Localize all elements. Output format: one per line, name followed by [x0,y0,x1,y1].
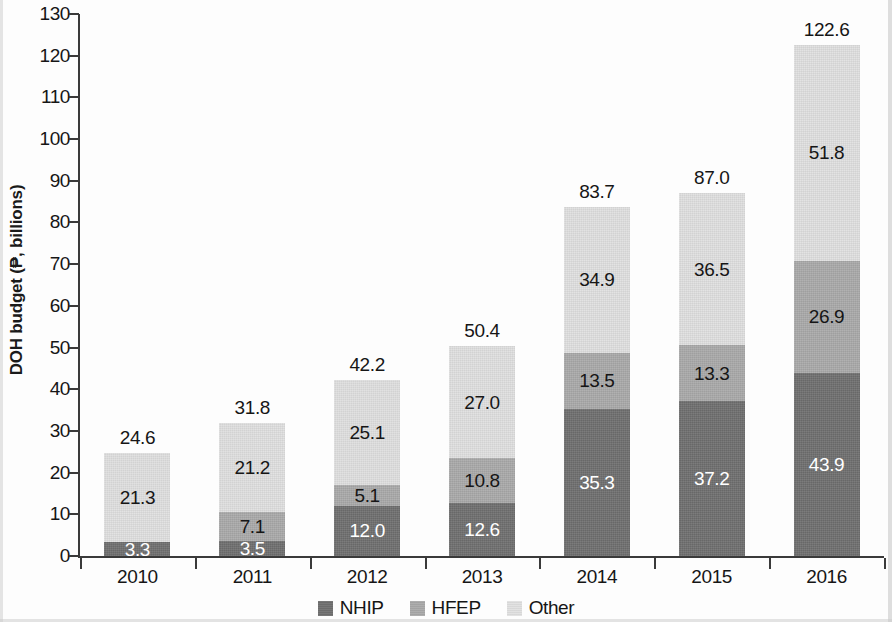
bar-segment-value-label: 25.1 [349,423,384,442]
y-axis-tick-mark [69,472,79,474]
bar-segment-hfep[interactable]: 10.8 [449,458,515,503]
x-axis-tick-mark [769,558,771,569]
x-axis-tick-label-2014: 2014 [577,566,618,588]
x-axis-tick-mark [654,558,656,569]
y-axis-tick-mark [69,13,79,15]
y-axis-tick-label: 100 [39,128,70,150]
bar-total-label: 42.2 [334,354,400,376]
bar-segment-other[interactable]: 34.9 [564,207,630,353]
bar-segment-nhip[interactable]: 12.6 [449,503,515,556]
bar-segment-value-label: 35.3 [579,473,614,492]
x-axis-tick-labels: 2010201120122013201420152016 [80,566,884,596]
legend-item-other[interactable]: Other [507,597,575,619]
y-axis-tick-labels: 0102030405060708090100110120130 [22,0,70,622]
bar-group-2014[interactable]: 34.913.535.383.7 [564,14,630,556]
y-axis-tick-label: 40 [50,378,70,400]
bar-stack: 21.33.3 [104,453,170,556]
bar-stack: 36.513.337.2 [679,193,745,556]
bar-segment-nhip[interactable]: 3.3 [104,542,170,556]
y-axis-tick-label: 70 [50,253,70,275]
bar-segment-nhip[interactable]: 3.5 [219,541,285,556]
y-axis-tick-mark [69,180,79,182]
y-axis-tick-mark [69,55,79,57]
bar-segment-other[interactable]: 51.8 [794,45,860,261]
bar-total-label: 122.6 [794,19,860,41]
bar-group-2015[interactable]: 36.513.337.287.0 [679,14,745,556]
bar-segment-other[interactable]: 21.2 [219,423,285,511]
y-axis-tick-mark [69,96,79,98]
y-axis-tick-label: 80 [50,211,70,233]
bar-segment-value-label: 3.5 [240,539,265,558]
bar-segment-value-label: 21.3 [120,488,155,507]
x-axis-tick-mark [310,558,312,569]
legend-swatch-nhip [318,601,333,616]
stacked-bar-chart: DOH budget (₱, billions) 010203040506070… [0,0,892,622]
bar-segment-other[interactable]: 25.1 [334,380,400,485]
y-axis-tick-mark [69,221,79,223]
legend-swatch-hfep [410,601,425,616]
bar-total-label: 87.0 [679,167,745,189]
legend-label: Other [529,597,575,619]
x-axis-tick-label-2013: 2013 [462,566,503,588]
y-axis-tick-label: 20 [50,462,70,484]
bar-segment-other[interactable]: 21.3 [104,453,170,542]
bar-group-2011[interactable]: 21.27.13.531.8 [219,14,285,556]
x-axis-line [78,556,884,558]
y-axis-tick-label: 10 [50,503,70,525]
legend-label: NHIP [340,597,384,619]
bar-group-2016[interactable]: 51.826.943.9122.6 [794,14,860,556]
bar-segment-value-label: 37.2 [694,469,729,488]
bar-segment-other[interactable]: 27.0 [449,346,515,459]
bar-segment-value-label: 13.3 [694,364,729,383]
y-axis-tick-mark [69,430,79,432]
scan-edge-left [0,0,3,622]
bar-stack: 27.010.812.6 [449,346,515,556]
y-axis-tick-mark [69,138,79,140]
bar-segment-other[interactable]: 36.5 [679,193,745,345]
y-axis-tick-label: 30 [50,420,70,442]
bar-segment-hfep[interactable]: 5.1 [334,485,400,506]
x-axis-tick-label-2010: 2010 [117,566,158,588]
bar-group-2012[interactable]: 25.15.112.042.2 [334,14,400,556]
bar-segment-hfep[interactable]: 26.9 [794,261,860,373]
legend-item-hfep[interactable]: HFEP [410,597,481,619]
bar-segment-value-label: 21.2 [235,458,270,477]
y-axis-tick-label: 120 [39,45,70,67]
bar-total-label: 31.8 [219,397,285,419]
bar-segment-hfep[interactable]: 13.3 [679,345,745,400]
bar-segment-hfep[interactable]: 7.1 [219,512,285,542]
bar-stack: 21.27.13.5 [219,423,285,556]
y-axis-tick-label: 110 [41,86,70,108]
bar-segment-nhip[interactable]: 37.2 [679,401,745,556]
bar-segment-nhip[interactable]: 43.9 [794,373,860,556]
bar-segment-value-label: 36.5 [694,260,729,279]
legend-swatch-other [507,601,522,616]
y-axis-tick-label: 130 [39,3,70,25]
bar-segment-value-label: 3.3 [125,540,150,559]
y-axis-tick-label: 50 [50,337,70,359]
bar-segment-nhip[interactable]: 12.0 [334,506,400,556]
bar-segment-value-label: 5.1 [355,486,380,505]
bar-segment-nhip[interactable]: 35.3 [564,409,630,556]
bar-group-2013[interactable]: 27.010.812.650.4 [449,14,515,556]
x-axis-tick-mark [539,558,541,569]
y-axis-tick-mark [69,347,79,349]
x-axis-tick-mark [884,558,886,569]
x-axis-tick-mark [425,558,427,569]
x-axis-tick-label-2012: 2012 [347,566,388,588]
bar-segment-value-label: 27.0 [464,393,499,412]
legend-item-nhip[interactable]: NHIP [318,597,384,619]
bar-stack: 25.15.112.0 [334,380,400,556]
bar-segment-value-label: 12.6 [464,520,499,539]
legend-label: HFEP [432,597,481,619]
bar-segment-hfep[interactable]: 13.5 [564,353,630,409]
bar-stack: 51.826.943.9 [794,45,860,556]
bar-segment-value-label: 43.9 [809,455,844,474]
bar-group-2010[interactable]: 21.33.324.6 [104,14,170,556]
x-axis-tick-mark [195,558,197,569]
bar-segment-value-label: 13.5 [579,371,614,390]
x-axis-tick-label-2011: 2011 [233,566,272,588]
bar-total-label: 83.7 [564,181,630,203]
y-axis-tick-mark [69,305,79,307]
bar-total-label: 50.4 [449,320,515,342]
